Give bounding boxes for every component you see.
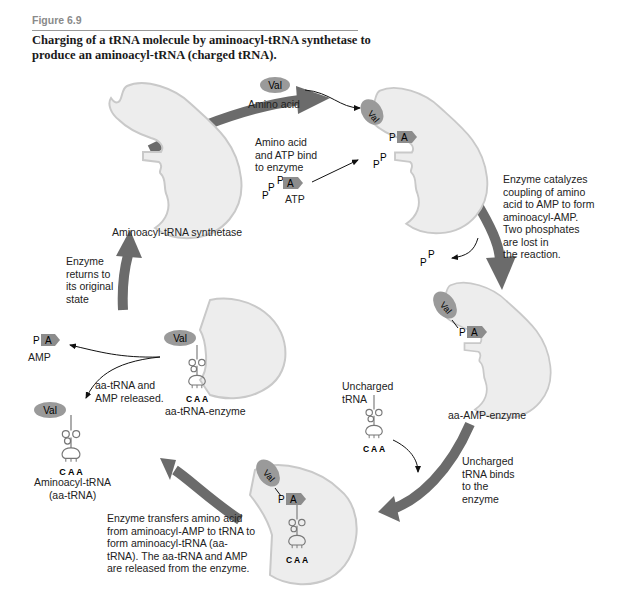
svg-text:A: A xyxy=(290,494,297,505)
label-uncharged-trna: Uncharged tRNA xyxy=(342,380,393,405)
step-catalyze: Enzyme catalyzes coupling of amino acid … xyxy=(503,173,594,261)
state-aa-trna-enzyme: aa-tRNA-enzyme xyxy=(165,405,246,418)
svg-text:C A A: C A A xyxy=(286,555,308,565)
label-atp: ATP xyxy=(285,193,305,206)
cycle-arrow-right-head xyxy=(486,256,516,290)
svg-text:P: P xyxy=(33,335,40,346)
cycle-arrow-left xyxy=(123,255,128,310)
cycle-arrow-bottom-right-head xyxy=(378,496,400,522)
svg-text:Val: Val xyxy=(43,405,57,416)
cycle-arrow-bottom-left-head xyxy=(160,458,176,480)
cycle-arrow-bottom-right xyxy=(390,424,470,510)
step-bind: Amino acid and ATP bind to enzyme xyxy=(255,136,317,174)
svg-text:Val: Val xyxy=(173,333,187,344)
svg-text:P: P xyxy=(459,327,466,338)
svg-text:P: P xyxy=(278,494,285,505)
svg-text:P: P xyxy=(277,175,284,186)
svg-text:P: P xyxy=(268,182,275,193)
svg-text:P: P xyxy=(420,257,427,268)
label-aminoacyl-trna: Aminoacyl-tRNA (aa-tRNA) xyxy=(34,476,111,501)
svg-text:A: A xyxy=(401,132,408,143)
svg-text:P: P xyxy=(373,159,380,170)
state-enzyme: Aminoacyl-tRNA synthetase xyxy=(112,226,242,239)
svg-text:P: P xyxy=(380,152,387,163)
step-transfer: Enzyme transfers amino acid from aminoac… xyxy=(107,512,255,575)
svg-text:C A A: C A A xyxy=(363,444,385,454)
svg-text:A: A xyxy=(45,335,52,346)
svg-text:P: P xyxy=(428,249,435,260)
label-amp: AMP xyxy=(28,351,51,364)
svg-text:A: A xyxy=(287,178,294,189)
state-aa-amp-enzyme: aa-AMP-enzyme xyxy=(448,409,526,422)
step-release: aa-tRNA and AMP released. xyxy=(95,379,164,404)
cycle-arrow-top-head xyxy=(296,86,330,114)
enzyme-aa-trna xyxy=(200,299,285,399)
label-amino-acid: Amino acid xyxy=(248,98,300,111)
svg-text:C A A: C A A xyxy=(186,394,208,404)
step-trna-binds: Uncharged tRNA binds to the enzyme xyxy=(462,455,515,505)
svg-text:P: P xyxy=(389,132,396,143)
svg-text:A: A xyxy=(471,327,478,338)
enzyme-free xyxy=(109,83,241,238)
val-free: Val xyxy=(268,80,282,91)
step-return: Enzyme returns to its original state xyxy=(66,255,113,305)
